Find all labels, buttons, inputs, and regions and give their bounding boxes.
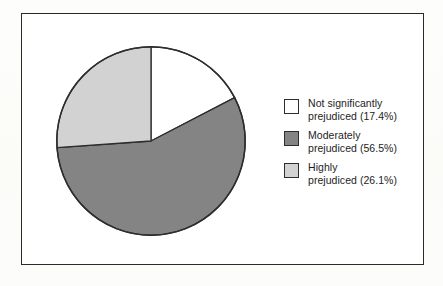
pie-chart [53, 43, 249, 239]
legend-item-not-significantly-prejudiced[interactable]: Not significantly prejudiced (17.4%) [284, 97, 422, 122]
legend-label: Not significantly prejudiced (17.4%) [308, 97, 397, 122]
legend-label: Highly prejudiced (26.1%) [308, 161, 397, 186]
legend-swatch-icon-light-gray [284, 163, 299, 178]
legend-item-moderately-prejudiced[interactable]: Moderately prejudiced (56.5%) [284, 129, 422, 154]
chart-legend: Not significantly prejudiced (17.4%) Mod… [284, 97, 422, 187]
legend-label: Moderately prejudiced (56.5%) [308, 129, 397, 154]
legend-swatch-icon-white [284, 99, 299, 114]
legend-swatch-icon-dark-gray [284, 131, 299, 146]
chart-frame: Not significantly prejudiced (17.4%) Mod… [21, 13, 424, 265]
legend-item-highly-prejudiced[interactable]: Highly prejudiced (26.1%) [284, 161, 422, 186]
pie-svg [53, 43, 249, 239]
pie-slice[interactable] [57, 47, 151, 148]
pie-slice-group [57, 47, 245, 235]
